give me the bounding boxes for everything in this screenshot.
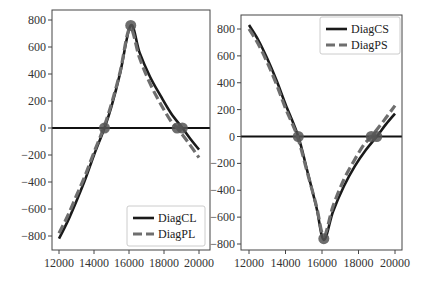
legend-label: DiagPL [158,227,195,241]
subplot-right: 8006004002000−200−400−600−80012000140001… [210,15,410,270]
legend-left: DiagCLDiagPL [127,206,205,246]
y-tick-label: −400 [21,175,46,189]
y-tick-label: 200 [28,94,46,108]
x-tick-label: 12000 [44,256,74,270]
y-tick-label: −800 [210,237,235,251]
marker-point [318,233,329,244]
marker-point [177,123,188,134]
x-tick-label: 14000 [79,256,109,270]
subplot-left: 8006004002000−200−400−600−80012000140001… [21,10,214,270]
marker-point [99,123,110,134]
y-tick-label: −800 [21,229,46,243]
legend-right: DiagCSDiagPS [320,17,400,54]
marker-point [371,131,382,142]
y-tick-label: 400 [217,76,235,90]
y-tick-label: −200 [210,156,235,170]
marker-point [293,131,304,142]
y-tick-label: 200 [217,103,235,117]
x-tick-label: 18000 [149,256,179,270]
y-tick-label: 800 [28,13,46,27]
x-tick-label: 16000 [307,256,337,270]
x-tick-label: 20000 [380,256,410,270]
y-tick-label: 600 [28,40,46,54]
y-tick-label: −600 [21,202,46,216]
legend-label: DiagCS [351,22,389,36]
y-tick-label: −400 [210,183,235,197]
y-tick-label: 600 [217,49,235,63]
y-tick-label: −200 [21,148,46,162]
x-tick-label: 14000 [271,256,301,270]
legend-label: DiagCL [158,211,197,225]
chart-figure: 8006004002000−200−400−600−80012000140001… [0,0,422,283]
y-tick-label: 400 [28,67,46,81]
x-tick-label: 16000 [114,256,144,270]
y-tick-label: 0 [229,130,235,144]
x-tick-label: 20000 [184,256,214,270]
y-tick-label: −600 [210,210,235,224]
marker-point [125,20,136,31]
x-tick-label: 18000 [344,256,374,270]
y-tick-label: 0 [40,121,46,135]
x-tick-label: 12000 [234,256,264,270]
legend-label: DiagPS [351,38,388,52]
y-tick-label: 800 [217,22,235,36]
